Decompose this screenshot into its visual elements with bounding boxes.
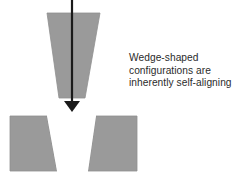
caption-line-2: configurations are [129,65,233,78]
figure-root: Wedge-shaped configurations are inherent… [0,0,234,184]
caption-line-1: Wedge-shaped [129,52,233,65]
lower-block-right-half [88,116,137,171]
caption-text: Wedge-shaped configurations are inherent… [129,52,233,90]
wedge-diagram [0,0,234,184]
caption-line-3: inherently self-aligning [129,77,233,90]
